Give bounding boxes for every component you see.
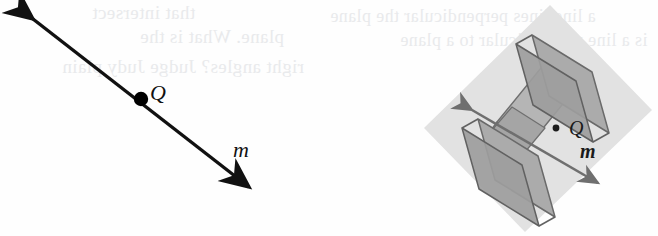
point-q-left	[134, 92, 148, 106]
label-q-right: Q	[569, 117, 583, 140]
left-diagram	[0, 0, 658, 236]
label-q-left: Q	[150, 80, 166, 106]
label-m-left: m	[233, 137, 249, 163]
label-m-right: m	[580, 140, 596, 163]
figure-canvas: that intersect plane. What is the right …	[0, 0, 658, 236]
